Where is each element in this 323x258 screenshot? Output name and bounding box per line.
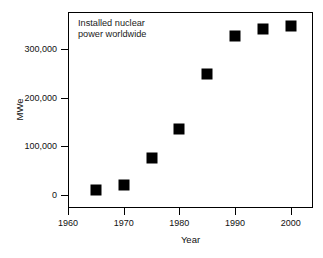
x-axis-tick xyxy=(179,208,180,215)
y-axis-tick xyxy=(61,146,68,147)
y-axis-tick xyxy=(61,195,68,196)
y-axis-tick-label: 100,000 xyxy=(0,141,57,151)
x-axis-tick xyxy=(291,208,292,215)
x-axis-tick xyxy=(124,208,125,215)
x-axis-tick-label: 1960 xyxy=(58,218,78,228)
y-axis-tick-label: 200,000 xyxy=(0,93,57,103)
x-axis-tick-label: 1990 xyxy=(225,218,245,228)
x-axis-tick-label: 2000 xyxy=(281,218,301,228)
y-axis-tick xyxy=(61,98,68,99)
annotation-line-2: power worldwide xyxy=(78,29,146,40)
data-point-marker xyxy=(230,31,241,42)
x-axis-title: Year xyxy=(68,234,313,245)
y-axis-tick-label: 300,000 xyxy=(0,44,57,54)
data-point-marker xyxy=(257,23,268,34)
data-point-marker xyxy=(146,153,157,164)
data-point-marker xyxy=(202,69,213,80)
chart-figure: Installed nuclear power worldwide 0100,0… xyxy=(0,0,323,258)
data-point-marker xyxy=(90,185,101,196)
y-axis-title: MWe xyxy=(14,87,25,133)
annotation-line-1: Installed nuclear xyxy=(78,18,146,29)
data-point-marker xyxy=(118,179,129,190)
x-axis-tick xyxy=(235,208,236,215)
y-axis-tick-label: 0 xyxy=(0,190,57,200)
y-axis-tick xyxy=(61,49,68,50)
x-axis-tick-label: 1970 xyxy=(114,218,134,228)
chart-annotation: Installed nuclear power worldwide xyxy=(78,18,146,41)
x-axis-tick xyxy=(68,208,69,215)
plot-area xyxy=(68,12,313,208)
data-point-marker xyxy=(174,124,185,135)
x-axis-tick-label: 1980 xyxy=(169,218,189,228)
data-point-marker xyxy=(285,20,296,31)
